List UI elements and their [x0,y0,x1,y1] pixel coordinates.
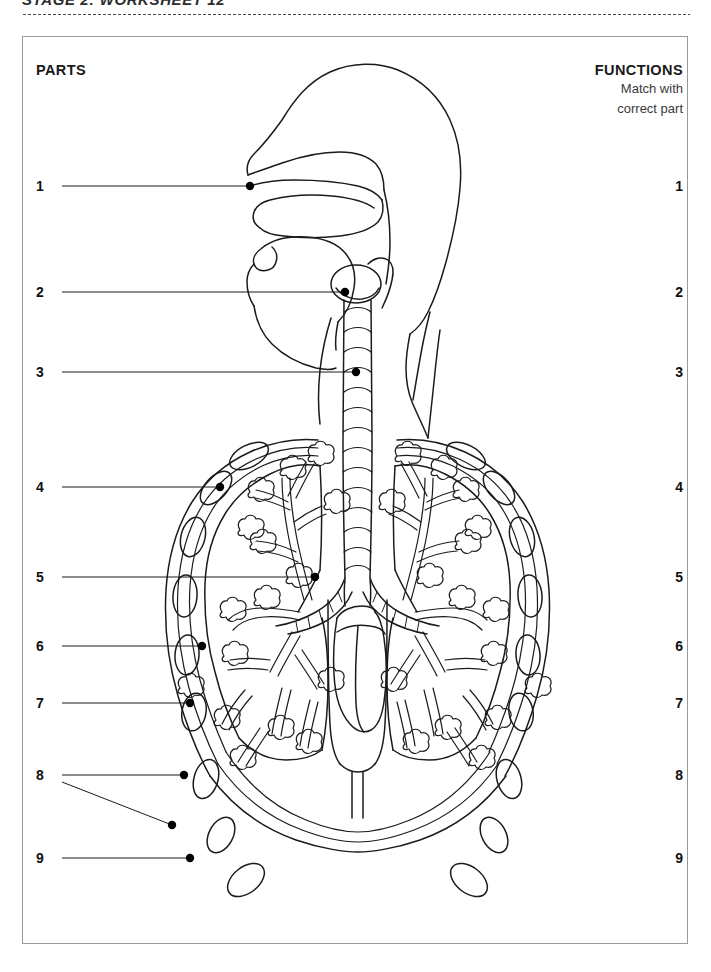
functions-number-2: 2 [675,285,683,299]
parts-column-header: PARTS [36,62,86,78]
functions-number-8: 8 [675,768,683,782]
parts-number-2: 2 [36,285,44,299]
parts-number-7: 7 [36,696,44,710]
functions-subtitle-line2: correct part [595,100,683,118]
dotted-divider [22,13,690,16]
parts-number-9: 9 [36,851,44,865]
functions-number-3: 3 [675,365,683,379]
functions-title: FUNCTIONS [595,62,683,78]
functions-number-7: 7 [675,696,683,710]
functions-number-4: 4 [675,480,683,494]
functions-number-1: 1 [675,179,683,193]
worksheet-frame [22,36,688,944]
functions-column-header: FUNCTIONS Match with correct part [595,62,683,117]
functions-number-5: 5 [675,570,683,584]
page-title: STAGE 2: WORKSHEET 12 [22,0,225,8]
functions-subtitle-line1: Match with [595,80,683,98]
parts-number-4: 4 [36,480,44,494]
functions-number-6: 6 [675,639,683,653]
parts-number-8: 8 [36,768,44,782]
parts-number-6: 6 [36,639,44,653]
parts-number-3: 3 [36,365,44,379]
parts-number-1: 1 [36,179,44,193]
functions-number-9: 9 [675,851,683,865]
parts-number-5: 5 [36,570,44,584]
